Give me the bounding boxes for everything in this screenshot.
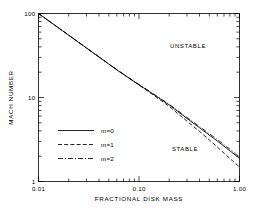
stable-region-label: STABLE xyxy=(172,146,198,152)
legend-label-m1: m=1 xyxy=(101,141,114,148)
x-tick-label: 1.00 xyxy=(233,185,247,192)
y-axis-label: MACH NUMBER xyxy=(7,70,14,124)
y-tick-label: 100 xyxy=(24,10,35,17)
x-axis-label: FRACTIONAL DISK MASS xyxy=(95,195,183,202)
legend-label-m0: m=0 xyxy=(101,127,114,134)
mach-number-stability-chart: 0.01 0.10 1.00 1 10 100 FRACTIONAL DISK … xyxy=(0,0,261,216)
x-tick-label: 0.10 xyxy=(132,185,146,192)
x-tick-label: 0.01 xyxy=(32,185,46,192)
y-tick-label: 1 xyxy=(32,178,36,185)
y-tick-label: 10 xyxy=(28,94,36,101)
legend-label-m2: m=2 xyxy=(101,155,114,162)
unstable-region-label: UNSTABLE xyxy=(170,43,206,49)
